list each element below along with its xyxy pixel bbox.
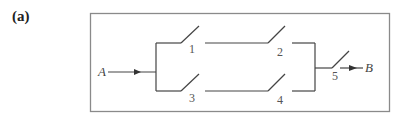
switch-1-blade: [181, 26, 199, 43]
switch-3-blade: [181, 74, 199, 91]
switch-5-label: 5: [332, 69, 338, 83]
diagram-frame: [91, 14, 390, 112]
output-arrow-icon: [349, 65, 357, 71]
switch-1-label: 1: [189, 42, 195, 56]
switch-2-label: 2: [277, 45, 283, 59]
switch-4-blade: [268, 74, 285, 91]
node-label-a: A: [97, 64, 106, 79]
input-arrow-icon: [134, 69, 141, 75]
switch-network-diagram: A 1 2 3 4 5 B: [0, 0, 403, 114]
node-label-b: B: [365, 60, 373, 75]
switch-2-blade: [268, 26, 285, 43]
switch-4-label: 4: [277, 93, 283, 107]
switch-5-blade: [332, 51, 349, 68]
switch-3-label: 3: [189, 91, 195, 105]
